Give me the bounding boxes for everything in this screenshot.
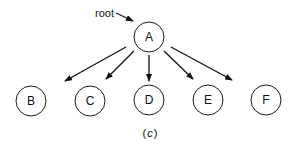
root-pointer-label: root — [95, 7, 114, 19]
edge-a-e — [164, 51, 193, 79]
tree-diagram: root A B C D E F (c) — [0, 0, 299, 148]
node-a: A — [134, 22, 164, 52]
node-d: D — [134, 85, 164, 115]
caption-letter: c — [147, 127, 153, 139]
node-b-label: B — [27, 94, 35, 108]
caption-open-paren: ( — [143, 127, 147, 139]
node-c-label: C — [86, 94, 95, 108]
node-e-label: E — [204, 93, 212, 107]
node-f: F — [251, 85, 281, 115]
node-d-label: D — [145, 93, 154, 107]
node-c: C — [75, 86, 105, 116]
root-pointer-arrow — [116, 13, 133, 21]
figure-caption: (c) — [143, 127, 158, 139]
caption-close-paren: ) — [154, 127, 158, 139]
node-b: B — [16, 86, 46, 116]
node-f-label: F — [262, 93, 269, 107]
node-a-label: A — [145, 30, 153, 44]
edge-a-b — [65, 47, 126, 81]
node-e: E — [193, 85, 223, 115]
edge-a-f — [171, 47, 232, 80]
